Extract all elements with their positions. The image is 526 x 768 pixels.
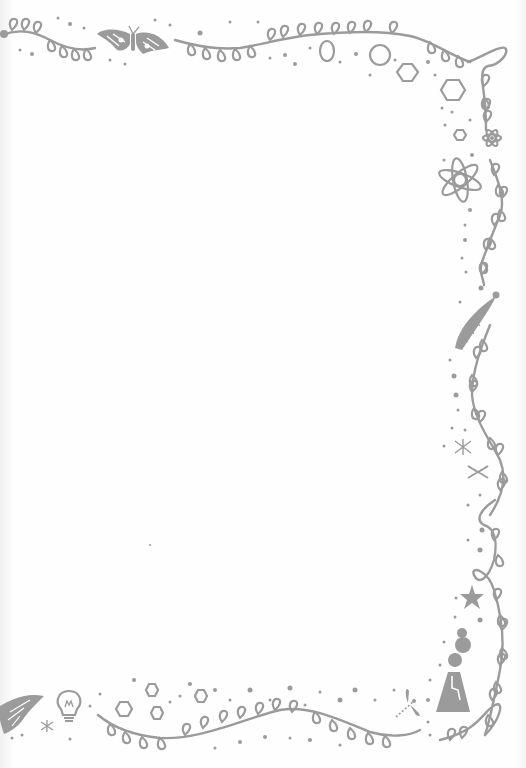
hexagon-outline-icon — [441, 80, 465, 100]
firefly-icon — [41, 720, 53, 732]
caterpillar-icon — [455, 292, 500, 351]
small-atom-icon — [483, 128, 501, 147]
top-vine-icon — [175, 21, 470, 67]
hexagon-outline-icon — [397, 64, 418, 81]
hexagon-outline-icon — [151, 707, 163, 719]
scattered-dots — [11, 17, 485, 750]
moth-icon — [97, 26, 169, 54]
corner-loop-vine-icon — [468, 48, 506, 130]
moth-icon — [0, 695, 44, 734]
hexagon-outline-icon — [195, 690, 207, 702]
volcano-flask-icon — [436, 628, 471, 712]
top-left-vine-icon — [0, 19, 95, 60]
right-vine-upper-icon — [480, 160, 507, 285]
dna-squiggle-icon — [468, 466, 488, 478]
small-hexagon-icon — [454, 130, 466, 140]
firefly-icon — [455, 439, 471, 455]
lightbulb-icon — [58, 691, 81, 721]
circle-outline-icon — [370, 45, 390, 65]
decorative-border — [0, 0, 526, 768]
dragonfly-icon — [396, 689, 420, 717]
stationery-page — [0, 0, 526, 768]
starfish-icon — [460, 585, 484, 609]
hexagon-outline-icon — [146, 684, 158, 696]
atom-icon — [437, 157, 483, 203]
bottom-vine-icon — [98, 699, 420, 749]
hexagon-outline-icon — [116, 702, 132, 716]
right-vine-lower-icon — [473, 500, 507, 735]
right-vine-middle-icon — [470, 325, 507, 515]
